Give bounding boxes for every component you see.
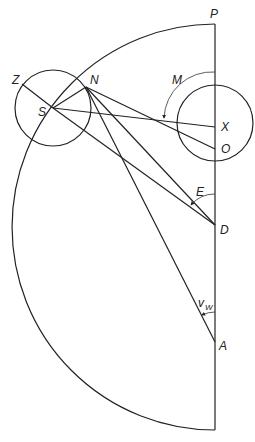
line-n-o — [86, 87, 215, 149]
label-o: O — [221, 142, 230, 156]
line-s-d — [53, 108, 215, 225]
label-x: X — [220, 120, 230, 134]
label-a: A — [218, 339, 227, 353]
label-p: P — [210, 7, 218, 21]
angle-vw-arc — [202, 312, 215, 315]
label-m: M — [172, 73, 182, 87]
line-s-x — [53, 108, 215, 127]
label-n: N — [90, 73, 99, 87]
label-s: S — [38, 105, 46, 119]
label-e: E — [196, 185, 205, 199]
label-w-subscript: W — [205, 303, 214, 312]
label-v: v — [198, 296, 205, 310]
label-z: Z — [11, 73, 20, 87]
diagram-canvas: P Z N S M X O E D v W A — [0, 0, 255, 442]
label-d: D — [220, 223, 229, 237]
great-circle-arc — [12, 24, 215, 430]
